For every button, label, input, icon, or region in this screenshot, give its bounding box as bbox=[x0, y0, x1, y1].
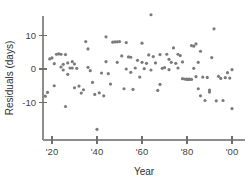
data-point bbox=[176, 66, 179, 69]
data-point bbox=[167, 68, 170, 71]
data-point bbox=[145, 62, 148, 65]
data-point bbox=[147, 53, 150, 56]
data-point bbox=[95, 128, 98, 131]
data-point bbox=[197, 87, 200, 90]
axes-group bbox=[43, 16, 245, 140]
data-point bbox=[230, 68, 233, 71]
data-point bbox=[64, 105, 67, 108]
data-point bbox=[116, 61, 119, 64]
data-point bbox=[210, 56, 213, 59]
x-tick-label: '00 bbox=[226, 146, 238, 157]
data-point bbox=[66, 73, 69, 76]
data-point bbox=[62, 68, 65, 71]
data-point bbox=[192, 45, 195, 48]
data-point bbox=[174, 62, 177, 65]
data-point bbox=[93, 93, 96, 96]
data-point bbox=[73, 86, 76, 89]
data-point bbox=[131, 88, 134, 91]
x-axis-ticks: '20'40'60'80'00 bbox=[46, 136, 238, 157]
data-point bbox=[98, 91, 101, 94]
x-tick-label: '60 bbox=[136, 146, 148, 157]
data-point bbox=[77, 84, 80, 87]
data-point bbox=[172, 46, 175, 49]
data-point bbox=[149, 68, 152, 71]
x-axis-title: Year bbox=[134, 166, 155, 177]
data-point bbox=[118, 40, 121, 43]
data-point bbox=[138, 75, 141, 78]
data-point bbox=[181, 60, 184, 63]
data-point bbox=[197, 61, 200, 64]
data-point bbox=[136, 59, 139, 62]
data-point bbox=[80, 92, 83, 95]
data-point bbox=[125, 67, 128, 70]
data-point bbox=[149, 13, 152, 16]
data-point bbox=[59, 53, 62, 56]
data-point bbox=[71, 60, 74, 63]
data-point bbox=[158, 83, 161, 86]
data-point bbox=[212, 27, 215, 30]
y-axis-title: Residuals (days) bbox=[4, 41, 15, 115]
data-point bbox=[50, 56, 53, 59]
data-point bbox=[100, 71, 103, 74]
data-point bbox=[221, 99, 224, 102]
data-point bbox=[84, 40, 87, 43]
data-points-group bbox=[44, 13, 234, 131]
data-point bbox=[224, 76, 227, 79]
data-point bbox=[208, 91, 211, 94]
data-point bbox=[156, 89, 159, 92]
data-point bbox=[62, 63, 65, 66]
data-point bbox=[66, 61, 69, 64]
data-point bbox=[199, 50, 202, 53]
residuals-scatter-chart: 100-10 '20'40'60'80'00 Year Residuals (d… bbox=[0, 0, 252, 180]
data-point bbox=[89, 69, 92, 72]
data-point bbox=[102, 94, 105, 97]
data-point bbox=[140, 61, 143, 64]
data-point bbox=[154, 61, 157, 64]
data-point bbox=[201, 75, 204, 78]
data-point bbox=[230, 107, 233, 110]
data-point bbox=[163, 66, 166, 69]
data-point bbox=[75, 67, 78, 70]
data-point bbox=[86, 47, 89, 50]
y-tick-label: 10 bbox=[25, 30, 36, 41]
data-point bbox=[107, 72, 110, 75]
data-point bbox=[91, 81, 94, 84]
data-point bbox=[53, 62, 56, 65]
data-point bbox=[104, 60, 107, 63]
data-point bbox=[228, 76, 231, 79]
data-point bbox=[167, 58, 170, 61]
x-tick-label: '80 bbox=[181, 146, 193, 157]
x-tick-label: '20 bbox=[46, 146, 58, 157]
data-point bbox=[104, 35, 107, 38]
y-tick-label: 0 bbox=[31, 63, 36, 74]
data-point bbox=[120, 54, 123, 57]
data-point bbox=[199, 94, 202, 97]
data-point bbox=[53, 84, 56, 87]
data-point bbox=[129, 71, 132, 74]
data-point bbox=[46, 91, 49, 94]
data-point bbox=[140, 42, 143, 45]
data-point bbox=[122, 87, 125, 90]
data-point bbox=[176, 53, 179, 56]
x-tick-label: '40 bbox=[91, 146, 103, 157]
data-point bbox=[44, 95, 47, 98]
data-point bbox=[192, 67, 195, 70]
data-point bbox=[71, 66, 74, 69]
data-point bbox=[82, 88, 85, 91]
data-point bbox=[226, 71, 229, 74]
y-tick-label: -10 bbox=[22, 97, 36, 108]
data-point bbox=[152, 55, 155, 58]
data-point bbox=[134, 66, 137, 69]
data-point bbox=[73, 62, 76, 65]
data-point bbox=[158, 53, 161, 56]
data-point bbox=[165, 53, 168, 56]
data-point bbox=[86, 66, 89, 69]
data-point bbox=[64, 53, 67, 56]
data-point bbox=[59, 65, 62, 68]
data-point bbox=[143, 67, 146, 70]
plot-area: 100-10 '20'40'60'80'00 Year Residuals (d… bbox=[0, 0, 252, 180]
data-point bbox=[219, 77, 222, 80]
data-point bbox=[203, 99, 206, 102]
data-point bbox=[194, 75, 197, 78]
data-point bbox=[125, 41, 128, 44]
